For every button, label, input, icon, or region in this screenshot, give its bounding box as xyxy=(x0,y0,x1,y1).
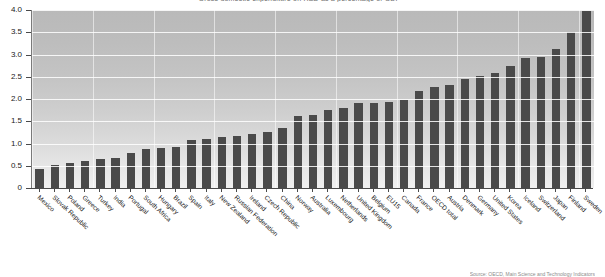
bar[interactable] xyxy=(354,103,362,188)
x-tick-mark xyxy=(46,188,61,192)
x-tick-mark xyxy=(396,188,411,192)
y-axis: 00.51.01.52.02.53.03.54.0 xyxy=(0,0,30,195)
x-label-cell: Italy xyxy=(198,193,213,275)
y-tick-label: 4.0 xyxy=(11,6,22,14)
bar[interactable] xyxy=(111,158,119,188)
bar[interactable] xyxy=(309,115,317,188)
x-tick-mark xyxy=(289,188,304,192)
gridline-horizontal xyxy=(32,55,594,56)
x-label-cell: Netherlands xyxy=(335,193,350,275)
x-label-cell: Japan xyxy=(547,193,562,275)
gridline-horizontal xyxy=(32,144,594,145)
bar[interactable] xyxy=(552,49,560,188)
x-tick-mark xyxy=(578,188,593,192)
bar[interactable] xyxy=(51,165,59,188)
bar[interactable] xyxy=(157,148,165,188)
x-tick-mark xyxy=(350,188,365,192)
x-tick-mark xyxy=(320,188,335,192)
gridline-horizontal xyxy=(32,166,594,167)
bar[interactable] xyxy=(415,91,423,188)
bar[interactable] xyxy=(430,87,438,188)
x-label-cell: Hungary xyxy=(153,193,168,275)
bar[interactable] xyxy=(491,73,499,188)
x-label-cell: United Kingdom xyxy=(350,193,365,275)
x-label-cell: Mexico xyxy=(31,193,46,275)
x-label-cell: Poland xyxy=(61,193,76,275)
x-label-cell: Czech Republic xyxy=(259,193,274,275)
x-label-cell: Ireland xyxy=(244,193,259,275)
gridline-horizontal xyxy=(32,121,594,122)
gridline-vertical xyxy=(518,10,519,188)
x-tick-mark xyxy=(213,188,228,192)
x-label-cell: South Africa xyxy=(137,193,152,275)
bar[interactable] xyxy=(187,140,195,188)
gridline-vertical xyxy=(457,10,458,188)
x-label-cell: Sweden xyxy=(578,193,593,275)
x-tick-mark xyxy=(137,188,152,192)
bar[interactable] xyxy=(278,128,286,188)
x-tick-mark xyxy=(365,188,380,192)
x-tick-mark xyxy=(471,188,486,192)
x-label-cell: Russian Federation xyxy=(228,193,243,275)
x-label-cell: Finland xyxy=(563,193,578,275)
x-label-cell: Belgium xyxy=(365,193,380,275)
gridline-horizontal xyxy=(32,10,594,11)
x-tick-mark xyxy=(335,188,350,192)
bar[interactable] xyxy=(263,132,271,189)
bar[interactable] xyxy=(142,149,150,188)
x-label-cell: Slovak Republic xyxy=(46,193,61,275)
y-tick-label: 2.0 xyxy=(11,95,22,103)
bar[interactable] xyxy=(506,66,514,188)
x-label-cell: Korea xyxy=(502,193,517,275)
x-tick-mark xyxy=(228,188,243,192)
x-label-cell: Spain xyxy=(183,193,198,275)
gridline-horizontal xyxy=(32,32,594,33)
x-label-cell: Denmark xyxy=(456,193,471,275)
bar[interactable] xyxy=(248,134,256,188)
bar[interactable] xyxy=(127,153,135,188)
y-tick-label: 1.0 xyxy=(11,140,22,148)
bar[interactable] xyxy=(445,85,453,188)
x-tick-mark xyxy=(168,188,183,192)
bar[interactable] xyxy=(294,116,302,188)
x-tick-mark xyxy=(183,188,198,192)
bar[interactable] xyxy=(172,147,180,188)
x-label-cell: Luxembourg xyxy=(320,193,335,275)
bar[interactable] xyxy=(96,159,104,188)
x-label-cell: Greece xyxy=(77,193,92,275)
bar[interactable] xyxy=(461,79,469,188)
x-label-cell: Brazil xyxy=(168,193,183,275)
gridline-vertical xyxy=(275,10,276,188)
bar[interactable] xyxy=(35,169,43,188)
x-tick-mark xyxy=(31,188,46,192)
x-tick-mark xyxy=(107,188,122,192)
x-label-cell: France xyxy=(411,193,426,275)
gridline-vertical xyxy=(336,10,337,188)
bar[interactable] xyxy=(370,103,378,188)
x-tick-mark xyxy=(487,188,502,192)
gridline-horizontal xyxy=(32,77,594,78)
x-tick-mark xyxy=(502,188,517,192)
gridline-vertical xyxy=(154,10,155,188)
y-tick-label: 0.5 xyxy=(11,162,22,170)
x-label-cell: China xyxy=(274,193,289,275)
x-tick-mark xyxy=(563,188,578,192)
plot-area xyxy=(31,10,594,188)
x-label-cell: New Zealand xyxy=(213,193,228,275)
gridline-vertical xyxy=(93,10,94,188)
x-label-cell: OECD total xyxy=(426,193,441,275)
x-label-cell: Turkey xyxy=(92,193,107,275)
x-label-cell: Iceland xyxy=(517,193,532,275)
x-label-cell: Canada xyxy=(396,193,411,275)
x-tick-label: Sweden xyxy=(583,194,605,215)
x-tick-mark xyxy=(441,188,456,192)
x-label-cell: Portugal xyxy=(122,193,137,275)
x-tick-mark xyxy=(61,188,76,192)
bar[interactable] xyxy=(476,76,484,188)
bar[interactable] xyxy=(202,139,210,188)
bar[interactable] xyxy=(385,102,393,188)
x-tick-mark xyxy=(153,188,168,192)
bar[interactable] xyxy=(218,137,226,188)
x-tick-mark xyxy=(77,188,92,192)
